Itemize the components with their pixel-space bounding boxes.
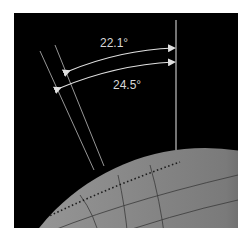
axis-line-22-1 [55, 45, 104, 166]
diagram-panel: 22.1° 24.5° [14, 13, 238, 228]
axis-line-24-5 [40, 51, 94, 170]
arc-22-1 [69, 48, 174, 71]
globe [14, 148, 238, 228]
label-max-tilt: 24.5° [113, 78, 141, 92]
label-min-tilt: 22.1° [100, 36, 128, 50]
tilt-diagram: 22.1° 24.5° [14, 13, 238, 228]
